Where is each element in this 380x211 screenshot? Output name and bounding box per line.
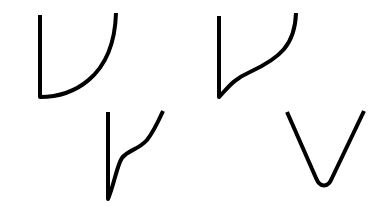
figure-canvas	[0, 0, 380, 211]
figure-background	[0, 0, 380, 211]
